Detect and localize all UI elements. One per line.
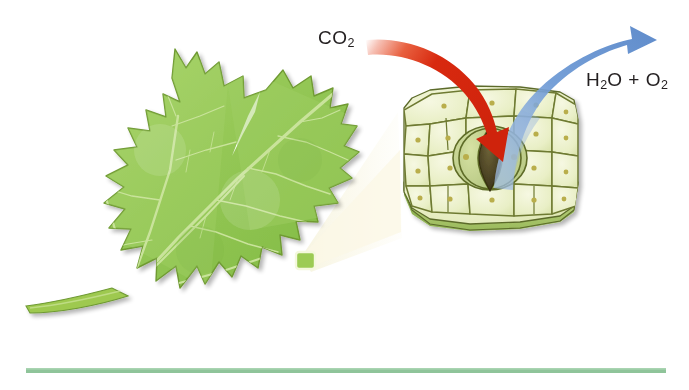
h2o-o2-label: H2O + O2 (586, 69, 668, 92)
h2o-o2-label-mid: O + O (607, 69, 661, 90)
illustration-layer (0, 0, 689, 390)
co2-label-formula: CO (318, 27, 348, 48)
leaf-magnification-marker (296, 252, 315, 269)
leaf-gas-exchange-figure: CO2 H2O + O2 (0, 0, 689, 390)
grape-leaf (26, 49, 360, 313)
leaf-epidermis-cells (404, 86, 578, 231)
bottom-rule (26, 368, 666, 373)
co2-label: CO2 (318, 27, 354, 50)
co2-label-subscript: 2 (348, 36, 355, 50)
h2o-o2-label-h: H (586, 69, 600, 90)
h2o-o2-label-sub-b: 2 (661, 78, 668, 92)
